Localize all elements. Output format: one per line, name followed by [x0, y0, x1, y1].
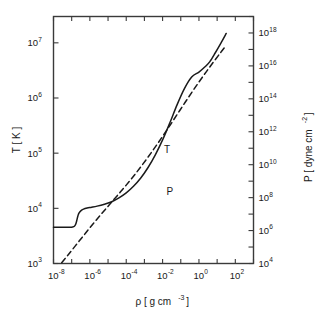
svg-text:4: 4	[38, 201, 42, 208]
figure-container: 10-810-610-410-2100102 103104105106107 1…	[0, 0, 330, 321]
svg-text:6: 6	[269, 223, 273, 230]
svg-text:-4: -4	[132, 268, 138, 275]
svg-text:10: 10	[259, 225, 270, 236]
svg-text:4: 4	[269, 256, 273, 263]
svg-text:2: 2	[241, 268, 245, 275]
svg-text:10: 10	[48, 270, 59, 281]
svg-text:-2: -2	[168, 268, 174, 275]
svg-text:10: 10	[121, 270, 132, 281]
svg-text:]: ]	[186, 296, 189, 307]
svg-text:5: 5	[38, 146, 42, 153]
svg-text:10: 10	[28, 148, 39, 159]
svg-text:18: 18	[269, 26, 277, 33]
svg-text:10: 10	[28, 258, 39, 269]
svg-text:10: 10	[28, 37, 39, 48]
svg-text:10: 10	[259, 258, 270, 269]
y-axis-left-title: T [ K ]	[11, 127, 22, 154]
svg-text:P [ dyne cm: P [ dyne cm	[303, 129, 314, 182]
svg-text:-2: -2	[301, 117, 308, 123]
svg-text:10: 10	[28, 92, 39, 103]
svg-text:7: 7	[38, 36, 42, 43]
svg-text:10: 10	[193, 270, 204, 281]
svg-text:10: 10	[259, 93, 270, 104]
svg-text:]: ]	[303, 112, 314, 115]
curve-label-T: T	[164, 144, 170, 155]
svg-text:10: 10	[84, 270, 95, 281]
svg-text:10: 10	[259, 192, 270, 203]
svg-text:16: 16	[269, 59, 277, 66]
svg-text:12: 12	[269, 125, 277, 132]
svg-text:ρ [ g cm: ρ [ g cm	[136, 296, 172, 307]
svg-text:10: 10	[259, 126, 270, 137]
svg-text:10: 10	[259, 27, 270, 38]
svg-text:10: 10	[157, 270, 168, 281]
chart-plot: 10-810-610-410-2100102 103104105106107 1…	[0, 0, 330, 321]
svg-text:6: 6	[38, 91, 42, 98]
svg-text:10: 10	[269, 158, 277, 165]
svg-text:10: 10	[259, 159, 270, 170]
svg-text:10: 10	[28, 203, 39, 214]
svg-text:14: 14	[269, 92, 277, 99]
svg-text:-6: -6	[95, 268, 101, 275]
svg-text:10: 10	[230, 270, 241, 281]
svg-text:8: 8	[269, 191, 273, 198]
svg-text:10: 10	[259, 60, 270, 71]
svg-text:-3: -3	[178, 294, 184, 301]
curve-label-P: P	[167, 186, 174, 197]
svg-text:0: 0	[204, 268, 208, 275]
svg-text:3: 3	[38, 256, 42, 263]
svg-text:-8: -8	[59, 268, 65, 275]
